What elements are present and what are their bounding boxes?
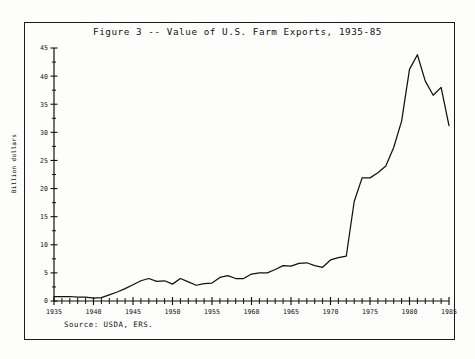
y-tick-label: 5: [44, 269, 48, 277]
x-tick-label: 1935: [46, 308, 62, 316]
source-note: Source: USDA, ERS.: [64, 320, 153, 329]
x-tick-label: 1955: [204, 308, 220, 316]
y-tick-label: 10: [40, 241, 48, 249]
x-tick-label: 1945: [125, 308, 141, 316]
y-tick-label: 15: [40, 213, 48, 221]
figure-container: Figure 3 -- Value of U.S. Farm Exports, …: [0, 0, 475, 359]
y-tick-label: 0: [44, 297, 48, 305]
x-tick-label: 1975: [362, 308, 378, 316]
x-tick-label: 1985: [441, 308, 457, 316]
x-tick-label: 1970: [323, 308, 339, 316]
x-tick-label: 1960: [244, 308, 260, 316]
x-tick-label: 1980: [402, 308, 418, 316]
axis-lines: [54, 48, 449, 301]
line-chart-plot: 051015202530354045 193519401945195019551…: [0, 0, 475, 359]
x-tick-label: 1940: [86, 308, 102, 316]
y-tick-label: 45: [40, 44, 48, 52]
y-tick-label: 35: [40, 101, 48, 109]
y-tick-label: 40: [40, 73, 48, 81]
data-series-line: [54, 55, 449, 298]
y-axis-tick-labels: 051015202530354045: [40, 44, 48, 305]
y-tick-label: 30: [40, 129, 48, 137]
y-tick-label: 20: [40, 185, 48, 193]
x-tick-label: 1950: [165, 308, 181, 316]
y-tick-label: 25: [40, 157, 48, 165]
x-axis-tick-labels: 1935194019451950195519601965197019751980…: [46, 308, 457, 316]
x-tick-label: 1965: [283, 308, 299, 316]
